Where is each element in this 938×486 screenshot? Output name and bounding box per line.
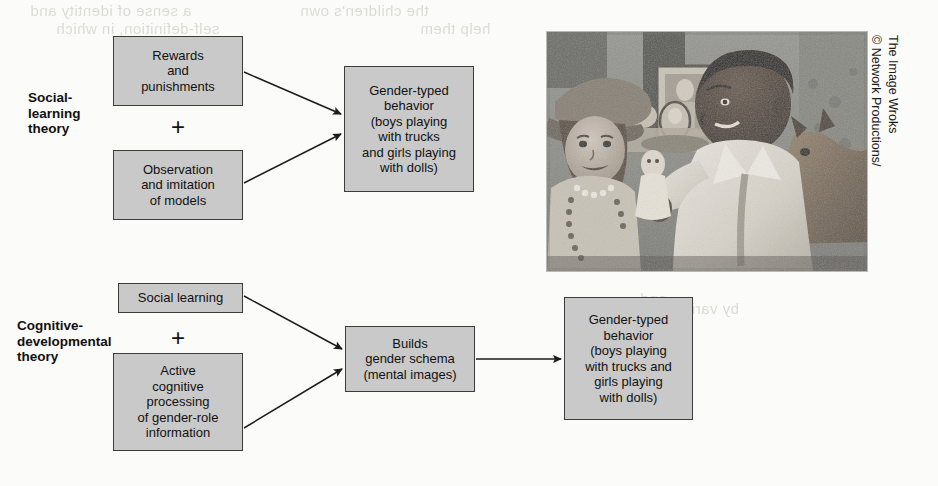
arrow-social-learning-to-schema <box>244 296 342 349</box>
node-builds-gender-schema[interactable]: Builds gender schema (mental images) <box>345 326 475 392</box>
node-active-cognitive-processing[interactable]: Active cognitive processing of gender-ro… <box>113 353 243 451</box>
node-social-learning-input[interactable]: Social learning <box>118 283 243 313</box>
figure-canvas: a sense of identity and self-definition,… <box>0 0 938 486</box>
operator-plus-cognitive-developmental: + <box>171 326 185 350</box>
theory-label-cognitive-developmental: Cognitive- developmental theory <box>17 318 112 365</box>
node-observation-and-imitation[interactable]: Observation and imitation of models <box>113 150 243 220</box>
theory-label-social-learning: Social- learning theory <box>28 90 81 137</box>
photo-children-playing-dressup <box>546 31 868 272</box>
arrow-observation-to-outcome <box>244 134 341 183</box>
arrow-cognitive-processing-to-schema <box>244 369 342 428</box>
bleed-through-text: the children's own <box>300 2 429 19</box>
operator-plus-social-learning: + <box>171 115 185 139</box>
bleed-through-text: a sense of identity and <box>30 2 192 19</box>
node-gender-typed-behavior-2[interactable]: Gender-typed behavior (boys playing with… <box>564 297 693 420</box>
bleed-through-text: self-definition, in which <box>56 20 219 37</box>
node-gender-typed-behavior-1[interactable]: Gender-typed behavior (boys playing with… <box>344 66 474 192</box>
photo-credit-line-2: The Image Wroks <box>886 35 900 133</box>
photo-credit: © Network Productions/ The Image Wroks <box>869 31 909 270</box>
node-rewards-and-punishments[interactable]: Rewards and punishments <box>113 36 243 106</box>
photo-credit-line-1: © Network Productions/ <box>869 35 883 166</box>
arrow-rewards-to-outcome <box>244 72 341 114</box>
bleed-through-text: help them <box>420 20 490 37</box>
